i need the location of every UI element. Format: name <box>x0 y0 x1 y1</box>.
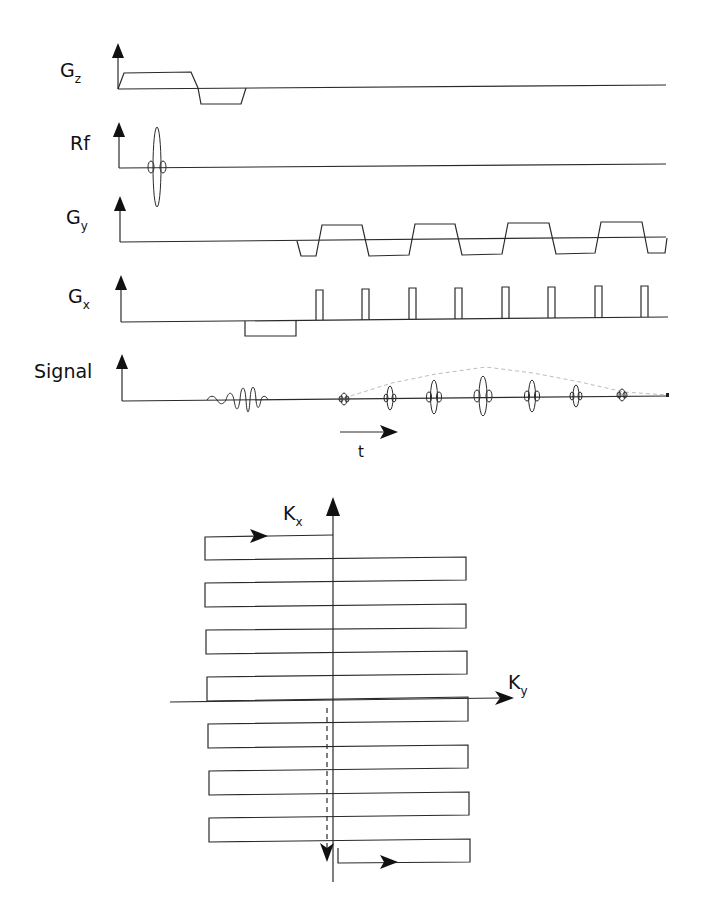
rf-baseline <box>119 164 666 168</box>
pulse-sequence-diagram: Gz Rf Gy Gx <box>34 43 669 461</box>
up-arrow-icon <box>326 497 340 516</box>
kx-label: Kx <box>283 502 303 529</box>
k-space-diagram: Kx Ky <box>170 497 528 882</box>
rf-pulse <box>148 127 166 207</box>
trajectory-direction-arrow-icon <box>380 855 398 869</box>
rf-label: Rf <box>70 132 91 154</box>
signal-baseline <box>122 396 668 401</box>
gy-baseline <box>120 237 666 242</box>
up-arrow-icon <box>116 354 128 369</box>
echo-train <box>339 376 669 416</box>
gx-baseline <box>121 317 668 322</box>
up-arrow-icon <box>112 43 124 58</box>
gx-label: Gx <box>68 285 90 312</box>
signal-row: Signal <box>34 354 669 416</box>
up-arrow-icon <box>115 275 127 290</box>
gx-blips <box>316 286 648 320</box>
time-label: t <box>358 443 364 461</box>
epi-diagram: Gz Rf Gy Gx <box>0 0 702 911</box>
gy-label: Gy <box>66 206 88 233</box>
up-arrow-icon <box>114 196 126 211</box>
gz-baseline <box>118 85 666 89</box>
gz-row: Gz <box>60 43 666 104</box>
rf-row: Rf <box>70 122 666 207</box>
signal-label: Signal <box>34 360 92 382</box>
up-arrow-icon <box>113 122 125 137</box>
gz-label: Gz <box>60 59 81 86</box>
gx-row: Gx <box>68 275 668 336</box>
ky-label: Ky <box>508 671 528 698</box>
gy-row: Gy <box>66 196 667 256</box>
gx-prephaser <box>245 320 296 336</box>
time-axis: t <box>340 425 398 461</box>
